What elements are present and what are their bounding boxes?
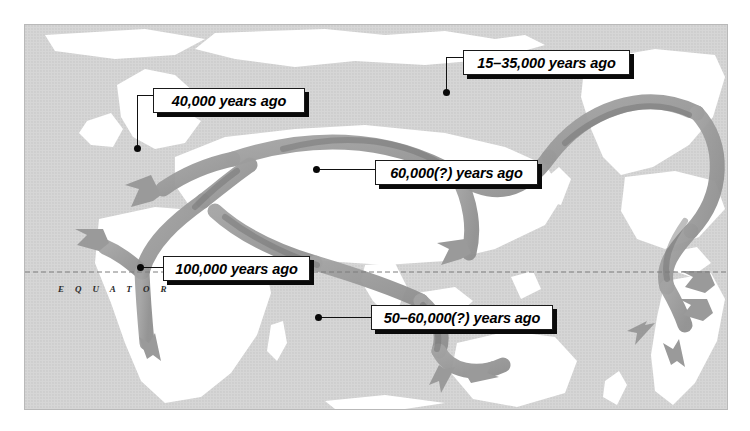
callout-100000[interactable]: 100,000 years ago [163, 256, 310, 281]
marker-dot-40000 [134, 145, 141, 152]
callout-box: 50–60,000(?) years ago [371, 305, 553, 330]
callout-label-text: 100,000 years ago [175, 261, 297, 277]
callout-box: 60,000(?) years ago [375, 160, 538, 185]
map-frame: E Q U A T O R [24, 24, 728, 410]
marker-dot-15-35000 [443, 89, 450, 96]
callout-box: 40,000 years ago [153, 88, 305, 113]
marker-dot-60000 [313, 166, 320, 173]
callout-label-text: 60,000(?) years ago [390, 165, 523, 181]
callout-60000[interactable]: 60,000(?) years ago [375, 160, 538, 185]
marker-dot-100000 [137, 264, 144, 271]
callout-40000[interactable]: 40,000 years ago [153, 88, 305, 113]
migration-map-figure: E Q U A T O R 40,000 years ago 15–35,000… [0, 0, 750, 431]
callout-label-text: 15–35,000 years ago [477, 55, 615, 71]
callout-15-35000[interactable]: 15–35,000 years ago [463, 50, 630, 75]
callout-label-text: 40,000 years ago [172, 93, 287, 109]
marker-dot-50-60000 [315, 314, 322, 321]
callout-box: 100,000 years ago [163, 256, 310, 281]
callout-50-60000[interactable]: 50–60,000(?) years ago [371, 305, 553, 330]
equator-label: E Q U A T O R [58, 284, 171, 294]
world-map-graphic [25, 25, 727, 409]
callout-label-text: 50–60,000(?) years ago [384, 310, 541, 326]
callout-box: 15–35,000 years ago [463, 50, 630, 75]
